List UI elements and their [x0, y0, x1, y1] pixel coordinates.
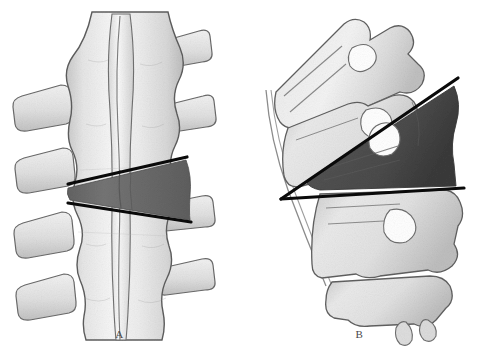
panel-a: A	[0, 0, 239, 348]
panel-a-caption: A	[0, 328, 239, 340]
figure-root: A	[0, 0, 479, 348]
panel-b-illustration	[240, 0, 479, 348]
panel-b-caption: B	[240, 328, 479, 340]
vertebra-lower	[312, 190, 463, 278]
panel-b: B	[240, 0, 479, 348]
panel-a-illustration	[0, 0, 239, 348]
